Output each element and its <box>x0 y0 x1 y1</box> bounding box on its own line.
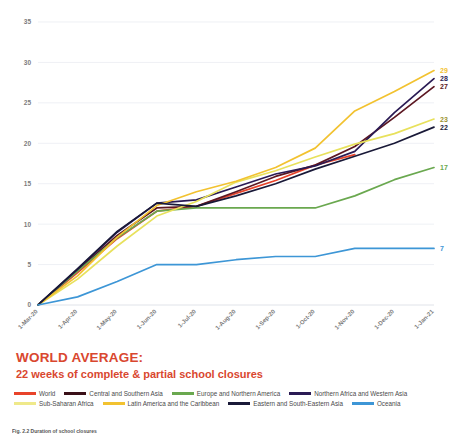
legend-color-swatch <box>14 402 36 405</box>
line-chart: 051015202530351-Mar-201-Apr-201-May-201-… <box>0 0 466 340</box>
series-end-value-label: 27 <box>440 83 448 90</box>
y-axis-tick-label: 35 <box>24 18 32 25</box>
legend-item[interactable]: Oceania <box>352 400 400 407</box>
x-axis-tick-label: 1-Nov-20 <box>333 308 356 331</box>
chart-legend: WorldCentral and Southern AsiaEurope and… <box>14 390 460 410</box>
x-axis-tick-label: 1-Jan-21 <box>413 308 435 330</box>
legend-item[interactable]: Sub-Saharan Africa <box>14 400 94 407</box>
series-line <box>38 127 434 305</box>
world-average-heading: WORLD AVERAGE: <box>16 350 456 365</box>
legend-item[interactable]: World <box>14 390 55 397</box>
series-end-value-label: 28 <box>440 75 448 82</box>
figure-caption-text: Fig. 2.2 Duration of school closures <box>12 428 97 434</box>
x-axis-tick-label: 1-Jun-20 <box>136 308 158 330</box>
legend-item[interactable]: Central and Southern Asia <box>64 390 163 397</box>
series-line <box>38 155 355 305</box>
y-axis-tick-label: 30 <box>24 59 32 66</box>
legend-label: Latin America and the Caribbean <box>128 400 220 407</box>
x-axis-tick-label: 1-Aug-20 <box>214 308 237 331</box>
series-end-value-label: 29 <box>440 67 448 74</box>
legend-label: Northern Africa and Western Asia <box>314 390 407 397</box>
chart-svg: 051015202530351-Mar-201-Apr-201-May-201-… <box>0 0 466 340</box>
legend-label: Sub-Saharan Africa <box>39 400 94 407</box>
legend-item[interactable]: Northern Africa and Western Asia <box>289 390 407 397</box>
y-axis-tick-label: 10 <box>24 221 32 228</box>
legend-color-swatch <box>289 392 311 395</box>
x-axis-tick-label: 1-May-20 <box>96 308 119 331</box>
series-end-value-label: 22 <box>440 124 448 131</box>
series-end-value-label: 7 <box>440 245 444 252</box>
x-axis-tick-label: 1-Mar-20 <box>17 308 39 330</box>
x-axis-tick-label: 1-Oct-20 <box>295 308 317 330</box>
x-axis-tick-label: 1-Sep-20 <box>254 308 276 330</box>
legend-label: Central and Southern Asia <box>89 390 163 397</box>
y-axis-tick-label: 15 <box>24 180 32 187</box>
chart-page: 051015202530351-Mar-201-Apr-201-May-201-… <box>0 0 466 438</box>
legend-color-swatch <box>14 392 36 395</box>
legend-label: Oceania <box>377 400 400 407</box>
x-axis-tick-label: 1-Dec-20 <box>373 308 395 330</box>
legend-item[interactable]: Eastern and South-Eastern Asia <box>228 400 343 407</box>
legend-item[interactable]: Europe and Northern America <box>172 390 280 397</box>
legend-color-swatch <box>64 392 86 395</box>
legend-color-swatch <box>228 402 250 405</box>
series-end-value-label: 17 <box>440 164 448 171</box>
legend-item[interactable]: Latin America and the Caribbean <box>103 400 220 407</box>
y-axis-tick-label: 0 <box>27 301 31 308</box>
legend-color-swatch <box>103 402 125 405</box>
legend-label: Eastern and South-Eastern Asia <box>253 400 343 407</box>
legend-color-swatch <box>172 392 194 395</box>
chart-title-block: WORLD AVERAGE: 22 weeks of complete & pa… <box>16 350 456 381</box>
y-axis-tick-label: 5 <box>27 261 31 268</box>
y-axis-tick-label: 25 <box>24 99 32 106</box>
legend-color-swatch <box>352 402 374 405</box>
legend-row-2: Sub-Saharan AfricaLatin America and the … <box>14 400 460 407</box>
legend-label: World <box>39 390 55 397</box>
legend-label: Europe and Northern America <box>197 390 280 397</box>
series-end-value-label: 23 <box>440 116 448 123</box>
x-axis-tick-label: 1-Jul-20 <box>177 308 198 329</box>
world-average-subheading: 22 weeks of complete & partial school cl… <box>16 367 456 381</box>
x-axis-tick-label: 1-Apr-20 <box>57 308 79 330</box>
y-axis-tick-label: 20 <box>24 140 32 147</box>
series-line <box>38 119 434 305</box>
series-line <box>38 168 434 305</box>
legend-row-1: WorldCentral and Southern AsiaEurope and… <box>14 390 460 397</box>
figure-caption: Fig. 2.2 Duration of school closures <box>12 428 462 438</box>
